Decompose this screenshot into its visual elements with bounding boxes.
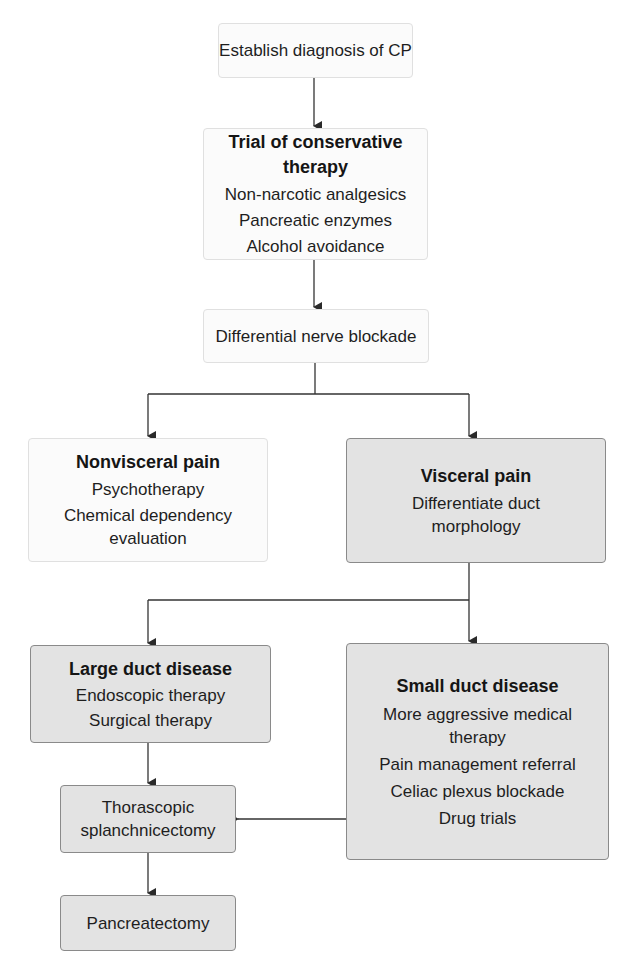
node-differential-nerve-blockade: Differential nerve blockade bbox=[203, 309, 429, 363]
node-text: Psychotherapy bbox=[92, 478, 204, 501]
node-text: Drug trials bbox=[439, 807, 516, 830]
node-text: Thorascopic bbox=[102, 796, 195, 819]
node-small-duct-disease: Small duct disease More aggressive medic… bbox=[346, 643, 609, 860]
node-thorascopic-splanchnicectomy: Thorascopic splanchnicectomy bbox=[60, 785, 236, 853]
node-conservative-therapy: Trial of conservative therapy Non-narcot… bbox=[203, 128, 428, 260]
node-text: Pancreatic enzymes bbox=[239, 209, 392, 232]
node-nonvisceral-pain: Nonvisceral pain Psychotherapy Chemical … bbox=[28, 438, 268, 562]
node-title: Trial of conservative therapy bbox=[204, 130, 427, 180]
node-pancreatectomy: Pancreatectomy bbox=[60, 895, 236, 951]
node-large-duct-disease: Large duct disease Endoscopic therapy Su… bbox=[30, 645, 271, 743]
node-title: Nonvisceral pain bbox=[76, 450, 220, 475]
node-establish-diagnosis: Establish diagnosis of CP bbox=[218, 23, 413, 78]
node-text: Pain management referral bbox=[379, 753, 576, 776]
node-text: Alcohol avoidance bbox=[247, 235, 385, 258]
node-text: Pancreatectomy bbox=[87, 912, 210, 935]
node-text: Surgical therapy bbox=[89, 709, 212, 732]
node-text: Differential nerve blockade bbox=[216, 325, 417, 348]
node-text: splanchnicectomy bbox=[80, 819, 215, 842]
node-text: Non-narcotic analgesics bbox=[225, 183, 406, 206]
node-title: Large duct disease bbox=[69, 657, 232, 682]
node-title: Visceral pain bbox=[421, 464, 532, 489]
node-title: Small duct disease bbox=[396, 674, 558, 699]
node-text: therapy bbox=[449, 726, 506, 749]
node-text: Establish diagnosis of CP bbox=[219, 39, 412, 62]
node-text: Differentiate duct bbox=[412, 492, 540, 515]
node-text: Endoscopic therapy bbox=[76, 684, 225, 707]
node-text: Chemical dependency bbox=[64, 504, 232, 527]
node-visceral-pain: Visceral pain Differentiate duct morphol… bbox=[346, 438, 606, 563]
node-text: morphology bbox=[432, 515, 521, 538]
node-text: Celiac plexus blockade bbox=[391, 780, 565, 803]
node-text: More aggressive medical bbox=[383, 703, 572, 726]
node-text: evaluation bbox=[109, 527, 187, 550]
